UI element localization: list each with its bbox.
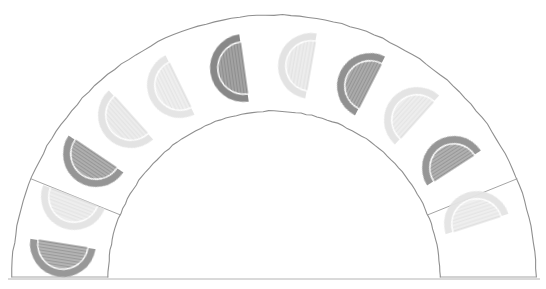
figure-canvas: Lunar phase arc: [0, 0, 546, 289]
lunar-phase-arc-diagram: [0, 0, 546, 289]
